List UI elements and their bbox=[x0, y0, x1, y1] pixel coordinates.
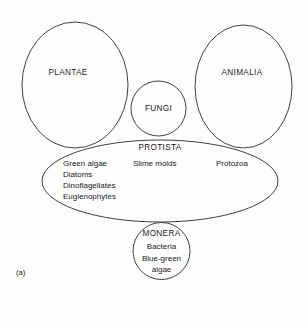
kingdom-monera: MONERA Bacteria Blue-green algae bbox=[133, 223, 190, 280]
plantae-outline bbox=[22, 22, 128, 148]
protista-member-slime-molds: Slime molds bbox=[133, 159, 177, 168]
animalia-label: ANIMALIA bbox=[221, 68, 262, 77]
protista-member-protozoa: Protozoa bbox=[216, 159, 249, 168]
kingdom-fungi: FUNGI bbox=[131, 81, 186, 136]
protista-label: PROTISTA bbox=[138, 143, 181, 152]
monera-member-bacteria: Bacteria bbox=[147, 242, 177, 251]
monera-member-algae: algae bbox=[152, 265, 172, 274]
protista-member-green-algae: Green algae bbox=[63, 159, 108, 168]
kingdom-plantae: PLANTAE bbox=[22, 22, 128, 148]
monera-member-blue-green: Blue-green bbox=[142, 254, 181, 263]
figure-panel: MONERA Bacteria Blue-green algae PROTIST… bbox=[0, 0, 306, 322]
protista-member-euglenophytes: Euglenophytes bbox=[63, 192, 116, 201]
protista-member-diatoms: Diatoms bbox=[63, 170, 92, 179]
monera-label: MONERA bbox=[142, 229, 180, 238]
animalia-outline bbox=[195, 25, 292, 148]
plantae-label: PLANTAE bbox=[48, 68, 87, 77]
protista-member-dinoflagellates: Dinoflagellates bbox=[63, 181, 115, 190]
five-kingdoms-diagram: MONERA Bacteria Blue-green algae PROTIST… bbox=[0, 0, 306, 322]
panel-label: (a) bbox=[16, 268, 26, 277]
kingdom-animalia: ANIMALIA bbox=[195, 25, 292, 148]
fungi-label: FUNGI bbox=[145, 104, 172, 113]
kingdom-protista: PROTISTA Green algae Diatoms Dinoflagell… bbox=[42, 140, 278, 222]
